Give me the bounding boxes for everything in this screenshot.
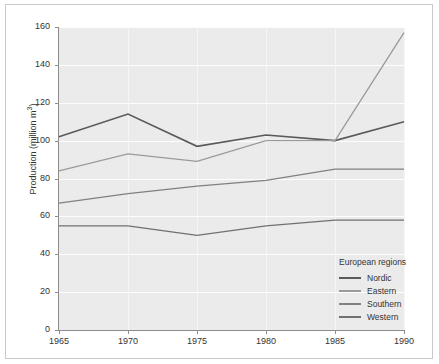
legend-swatch-nordic bbox=[339, 277, 361, 279]
legend-swatch-western bbox=[339, 316, 361, 318]
series-line-western bbox=[59, 220, 404, 235]
legend-swatch-eastern bbox=[339, 290, 361, 292]
series-line-southern bbox=[59, 169, 404, 203]
series-line-nordic bbox=[59, 114, 404, 146]
legend-item-nordic[interactable]: Nordic bbox=[339, 271, 434, 284]
legend-label: Southern bbox=[367, 299, 402, 309]
legend-item-eastern[interactable]: Eastern bbox=[339, 284, 434, 297]
legend-swatch-southern bbox=[339, 303, 361, 305]
series-line-eastern bbox=[59, 33, 404, 171]
legend-label: Western bbox=[367, 312, 399, 322]
legend-title: European regions bbox=[339, 257, 434, 267]
legend-item-western[interactable]: Western bbox=[339, 310, 434, 323]
chart-legend: European regions NordicEasternSouthernWe… bbox=[339, 257, 434, 323]
chart-figure: Production (million m3) 0204060801001201… bbox=[5, 4, 433, 359]
legend-label: Nordic bbox=[367, 273, 392, 283]
legend-items: NordicEasternSouthernWestern bbox=[339, 271, 434, 323]
legend-label: Eastern bbox=[367, 286, 396, 296]
legend-item-southern[interactable]: Southern bbox=[339, 297, 434, 310]
